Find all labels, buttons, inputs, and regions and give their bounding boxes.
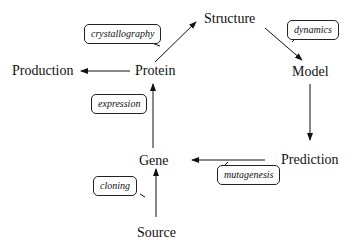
node-structure: Structure [204, 11, 255, 27]
label-mutagenesis: mutagenesis [217, 165, 280, 185]
node-source: Source [137, 225, 176, 241]
label-crystallography: crystallography [84, 24, 161, 44]
node-protein: Protein [135, 63, 175, 79]
arrow-protein-structure [155, 22, 196, 62]
label-cloning: cloning [93, 176, 137, 196]
label-expression: expression [91, 94, 147, 114]
node-production: Production [12, 63, 73, 79]
label-dynamics: dynamics [287, 20, 339, 40]
node-prediction: Prediction [281, 152, 339, 168]
node-model: Model [292, 64, 329, 80]
bubble-tail-cloning [140, 194, 145, 197]
node-gene: Gene [139, 153, 169, 169]
